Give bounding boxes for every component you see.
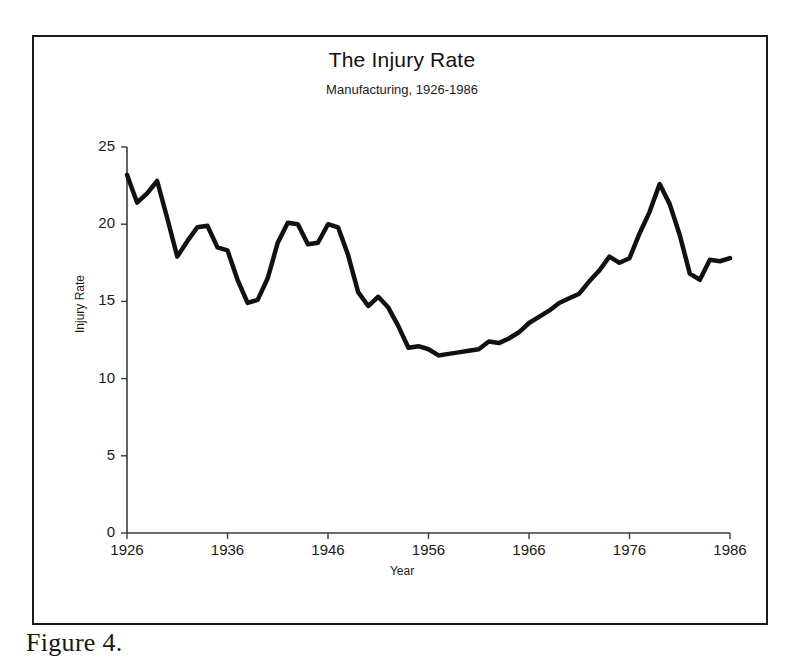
x-tick-label: 1966 (494, 541, 564, 558)
x-tick-label: 1976 (595, 541, 665, 558)
x-tick-label: 1926 (92, 541, 162, 558)
injury-rate-chart: The Injury Rate Manufacturing, 1926-1986… (34, 37, 770, 627)
y-tick-label: 25 (71, 137, 115, 154)
x-tick-label: 1946 (293, 541, 363, 558)
plot-svg (34, 37, 770, 627)
y-tick-label: 10 (71, 369, 115, 386)
x-tick-label: 1956 (394, 541, 464, 558)
injury-rate-series-line (127, 175, 730, 356)
figure-caption: Figure 4. (26, 628, 123, 658)
y-axis-label: Injury Rate (73, 244, 87, 364)
y-tick-marks (121, 147, 127, 533)
figure-border: The Injury Rate Manufacturing, 1926-1986… (32, 35, 768, 625)
axes-group (127, 147, 730, 533)
x-tick-label: 1986 (695, 541, 765, 558)
y-tick-label: 20 (71, 214, 115, 231)
y-tick-label: 5 (71, 446, 115, 463)
x-tick-marks (127, 533, 730, 539)
x-tick-label: 1936 (193, 541, 263, 558)
y-tick-label: 0 (71, 523, 115, 540)
x-axis-label: Year (34, 564, 770, 578)
